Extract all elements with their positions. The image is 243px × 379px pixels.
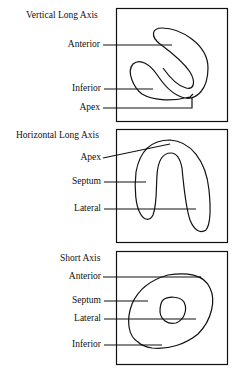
label-anterior: Anterior (68, 39, 100, 49)
label-septum: Septum (72, 176, 101, 186)
label-apex: Apex (79, 102, 100, 112)
label-inferior: Inferior (72, 339, 101, 349)
horizontal-long-axis-frame (117, 130, 228, 243)
label-septum: Septum (72, 295, 101, 305)
horizontal-long-axis-outline (135, 140, 210, 232)
horizontal-long-axis-title: Horizontal Long Axis (16, 130, 99, 140)
vertical-long-axis-title: Vertical Long Axis (26, 10, 98, 20)
label-lateral: Lateral (74, 313, 101, 323)
short-axis-frame (117, 252, 228, 365)
label-lateral: Lateral (74, 203, 101, 213)
vertical-long-axis-frame (117, 9, 228, 122)
label-anterior: Anterior (69, 271, 101, 281)
vertical-long-axis-inner (160, 44, 193, 88)
label-apex: Apex (80, 152, 101, 162)
label-inferior: Inferior (72, 83, 101, 93)
short-axis-outer-ring (129, 274, 213, 349)
diagram-drawing (0, 0, 243, 379)
short-axis-title: Short Axis (60, 253, 100, 263)
